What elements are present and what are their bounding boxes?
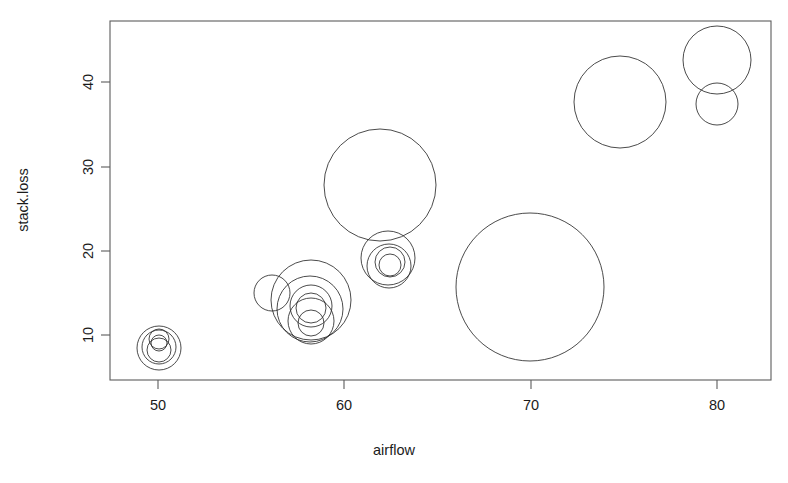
scatter-plot-svg: 50607080 10203040 airflow stack.loss <box>0 0 788 483</box>
y-axis-title: stack.loss <box>15 168 31 232</box>
x-tick-label: 60 <box>336 397 352 413</box>
y-tick-label: 40 <box>80 74 96 90</box>
y-tick-label: 30 <box>80 159 96 175</box>
y-tick-label: 10 <box>80 327 96 343</box>
y-tick-label: 20 <box>80 243 96 259</box>
x-axis-title: airflow <box>373 442 415 458</box>
x-tick-label: 50 <box>150 397 166 413</box>
plot-background <box>0 0 788 483</box>
x-tick-label: 80 <box>709 397 725 413</box>
bubble-chart-canvas: 50607080 10203040 airflow stack.loss <box>0 0 788 483</box>
x-tick-label: 70 <box>523 397 539 413</box>
